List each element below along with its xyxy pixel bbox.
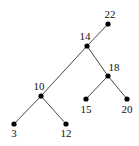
nodes-group <box>11 21 129 126</box>
node-label-20: 20 <box>122 103 134 115</box>
node-12 <box>63 121 68 126</box>
node-label-3: 3 <box>11 127 17 139</box>
node-label-10: 10 <box>34 80 46 92</box>
edge-14-18 <box>87 46 108 76</box>
tree-diagram: 221418101520312 <box>0 0 139 146</box>
node-label-15: 15 <box>81 103 93 115</box>
node-15 <box>83 96 88 101</box>
node-18 <box>105 73 110 78</box>
edge-10-12 <box>41 96 66 124</box>
node-10 <box>38 93 43 98</box>
edge-14-10 <box>41 46 87 96</box>
node-14 <box>84 43 89 48</box>
node-3 <box>11 121 16 126</box>
edge-18-15 <box>86 76 108 99</box>
node-label-22: 22 <box>105 8 116 20</box>
node-label-12: 12 <box>61 127 72 139</box>
node-label-14: 14 <box>80 30 92 42</box>
node-label-18: 18 <box>109 61 121 73</box>
edges-group <box>14 24 127 124</box>
edge-18-20 <box>108 76 127 99</box>
node-22 <box>105 21 110 26</box>
edge-10-3 <box>14 96 41 124</box>
labels-group: 221418101520312 <box>11 8 133 139</box>
node-20 <box>124 96 129 101</box>
